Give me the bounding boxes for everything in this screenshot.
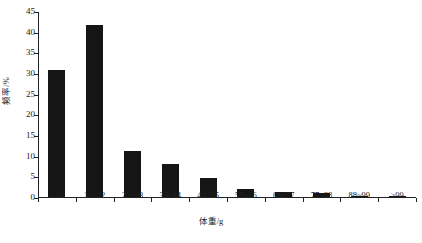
x-axis-tick-label: 11~22 bbox=[76, 190, 114, 201]
x-axis-title: 体重/g bbox=[0, 216, 422, 227]
x-axis-tick-label: 77~88 bbox=[303, 190, 341, 201]
x-axis-tick-label: 44~55 bbox=[189, 190, 227, 201]
x-axis-tick-label: 55~66 bbox=[227, 190, 265, 201]
x-axis-tick-label: >99 bbox=[378, 190, 416, 201]
x-axis-tick-label: < 11 bbox=[38, 190, 76, 201]
bar bbox=[48, 70, 65, 197]
y-axis-tick-label: 30 bbox=[26, 68, 35, 79]
x-axis-tick-label: 22~33 bbox=[114, 190, 152, 201]
x-axis-tick-label: 88~99 bbox=[340, 190, 378, 201]
y-axis-tick-label: 10 bbox=[26, 151, 35, 162]
plot-area: 051015202530354045 bbox=[38, 12, 416, 198]
y-axis-tick-label: 45 bbox=[26, 6, 35, 17]
histogram-chart: 频率/% 051015202530354045 < 1111~2222~3333… bbox=[0, 0, 422, 243]
y-axis-tick-label: 35 bbox=[26, 47, 35, 58]
y-axis-line bbox=[38, 12, 39, 198]
bar bbox=[86, 25, 103, 197]
y-axis-tick-label: 25 bbox=[26, 89, 35, 100]
x-axis-tick-mark bbox=[416, 198, 417, 202]
y-axis-tick-label: 15 bbox=[26, 130, 35, 141]
y-axis-title: 频率/% bbox=[1, 69, 11, 113]
x-axis-tick-label: 33~44 bbox=[151, 190, 189, 201]
x-axis-tick-label: 66~77 bbox=[265, 190, 303, 201]
y-axis-tick-label: 40 bbox=[26, 27, 35, 38]
y-axis-tick-label: 0 bbox=[31, 192, 36, 203]
y-axis-tick-label: 20 bbox=[26, 109, 35, 120]
y-axis-tick-label: 5 bbox=[31, 171, 36, 182]
